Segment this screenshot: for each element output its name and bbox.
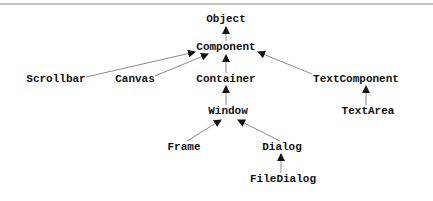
node-component: Component bbox=[196, 41, 255, 53]
node-canvas: Canvas bbox=[115, 73, 155, 85]
node-textcomponent: TextComponent bbox=[313, 73, 399, 85]
node-container: Container bbox=[196, 73, 255, 85]
node-dialog: Dialog bbox=[262, 141, 302, 153]
node-object: Object bbox=[206, 13, 246, 25]
node-frame: Frame bbox=[167, 141, 200, 153]
node-window: Window bbox=[208, 105, 248, 117]
edge-frame-window bbox=[187, 120, 221, 141]
node-textarea: TextArea bbox=[342, 105, 395, 117]
node-filedialog: FileDialog bbox=[250, 173, 316, 185]
node-scrollbar: Scrollbar bbox=[26, 73, 85, 85]
inheritance-edges bbox=[0, 0, 433, 201]
edge-textcomponent-component bbox=[258, 52, 312, 74]
edge-dialog-window bbox=[238, 120, 280, 141]
